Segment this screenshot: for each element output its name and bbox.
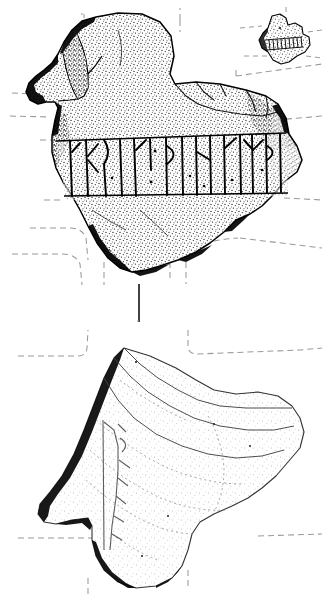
reconstruction-line bbox=[236, 64, 322, 76]
glyph-dot bbox=[261, 169, 264, 172]
glyph bbox=[266, 134, 267, 193]
glyph bbox=[252, 135, 253, 193]
reconstruction-line bbox=[10, 116, 50, 117]
lower-oblique-view bbox=[0, 320, 322, 605]
reconstruction-line bbox=[12, 254, 82, 285]
glyph bbox=[182, 137, 183, 195]
glyph bbox=[224, 136, 225, 194]
scale-tick-separator bbox=[130, 282, 150, 324]
inset-pit bbox=[279, 27, 281, 29]
glyph-dot bbox=[111, 177, 114, 180]
glyph bbox=[210, 136, 211, 194]
glyph-dot bbox=[203, 185, 206, 188]
reconstruction-line bbox=[258, 534, 322, 536]
glyph-dot bbox=[154, 150, 157, 153]
inscription-band-upper bbox=[50, 128, 295, 206]
glyph bbox=[280, 134, 281, 192]
reconstruction-line bbox=[30, 228, 88, 260]
reconstruction-line bbox=[240, 238, 322, 248]
stone-body-lower bbox=[0, 320, 322, 605]
scale-inset bbox=[240, 6, 322, 70]
glyph bbox=[196, 137, 197, 195]
glyph-dot bbox=[150, 181, 153, 184]
glyph-dot bbox=[231, 179, 234, 182]
glyph-dot bbox=[189, 175, 192, 178]
reconstruction-line bbox=[188, 330, 322, 354]
glyph bbox=[150, 139, 151, 170]
upper-face-view bbox=[0, 0, 322, 300]
archaeological-plate bbox=[0, 0, 322, 605]
reconstruction-line bbox=[18, 330, 88, 356]
glyph bbox=[240, 135, 241, 194]
reconstruction-line bbox=[284, 198, 322, 200]
